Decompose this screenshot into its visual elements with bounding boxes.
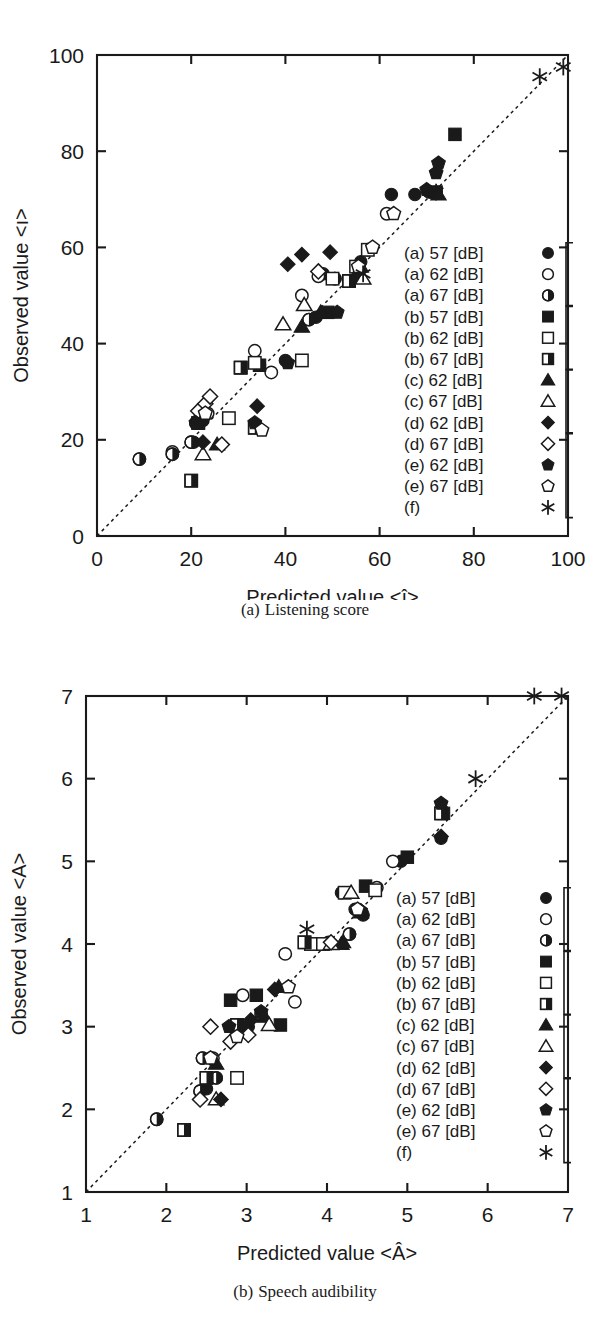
legend-label: (e) 67 [dB]: [404, 477, 483, 496]
figure-speech-audibility: 12345671234567Predicted value <Â>Observe…: [0, 640, 610, 1342]
legend-label: (d) 62 [dB]: [396, 1059, 475, 1078]
y-tick-label: 20: [61, 428, 84, 451]
marker-circle-open-pt: [249, 345, 261, 357]
marker-square-half-pt-half: [184, 1124, 190, 1136]
marker-circle-open-pt: [236, 989, 248, 1001]
marker-pentagon-filled-legend: [542, 459, 554, 470]
marker-diamond-open-pt: [203, 1019, 218, 1034]
legend-label: (b) 57 [dB]: [396, 953, 475, 972]
marker-circle-filled-legend: [541, 893, 552, 904]
marker-circle-open-pt: [387, 855, 399, 867]
marker-square-open-pt: [249, 357, 261, 369]
series-11: [198, 207, 400, 436]
marker-circle-open-pt: [265, 366, 277, 378]
marker-square-open-pt: [223, 412, 235, 424]
x-tick-label: 5: [401, 1203, 413, 1226]
x-tick-label: 1: [80, 1203, 92, 1226]
marker-pentagon-filled-pt: [254, 1005, 268, 1018]
legend: (a) 57 [dB](a) 62 [dB](a) 67 [dB](b) 57 …: [396, 888, 571, 1163]
marker-diamond-open-legend: [541, 437, 554, 450]
y-axis-title: Observed value <A>: [8, 853, 30, 1035]
marker-square-filled-pt: [449, 128, 461, 140]
identity-reference-line: [97, 55, 568, 536]
scatter-plot-speech-audibility: 12345671234567Predicted value <Â>Observe…: [0, 640, 610, 1280]
legend-label: (c) 67 [dB]: [396, 1037, 474, 1056]
x-axis-title: Predicted value <î>: [246, 586, 418, 600]
caption-text-b: Speech audibility: [258, 1282, 377, 1301]
marker-diamond-filled-legend: [542, 416, 555, 429]
caption-text-a: Listening score: [265, 600, 369, 619]
legend-label: (e) 67 [dB]: [396, 1122, 475, 1141]
x-tick-label: 0: [91, 547, 103, 570]
marker-square-filled-legend: [541, 956, 552, 967]
x-tick-label: 100: [550, 547, 585, 570]
y-axis-title: Observed value <ı>: [10, 208, 32, 383]
legend-label: (d) 62 [dB]: [404, 414, 483, 433]
legend-label: (f): [404, 498, 420, 517]
marker-square-open-pt: [326, 272, 338, 284]
legend-label: (b) 57 [dB]: [404, 308, 483, 327]
y-tick-label: 1: [61, 1181, 73, 1204]
legend: (a) 57 [dB](a) 62 [dB](a) 67 [dB](b) 57 …: [404, 243, 573, 518]
legend-label: (b) 62 [dB]: [396, 974, 475, 993]
marker-square-filled-legend: [543, 311, 554, 322]
marker-square-half-legend-half: [546, 999, 551, 1010]
legend-label: (a) 67 [dB]: [404, 286, 483, 305]
y-tick-label: 2: [61, 1098, 73, 1121]
marker-triangle-open-pt: [275, 317, 290, 330]
marker-diamond-filled-pt: [250, 399, 265, 414]
legend-label: (d) 67 [dB]: [404, 435, 483, 454]
y-tick-label: 60: [61, 236, 84, 259]
x-tick-label: 2: [160, 1203, 172, 1226]
axis-tick-labels: 12345671234567: [61, 685, 574, 1227]
marker-pentagon-open-legend: [542, 480, 554, 491]
marker-circle-filled-pt: [385, 188, 397, 200]
marker-triangle-filled-legend: [539, 1019, 552, 1030]
marker-square-open-pt: [369, 884, 381, 896]
marker-diamond-open-legend: [539, 1082, 552, 1095]
legend-label: (e) 62 [dB]: [404, 456, 483, 475]
marker-triangle-open-legend: [541, 395, 554, 406]
y-tick-label: 5: [61, 850, 73, 873]
marker-pentagon-open-pt: [282, 980, 296, 993]
marker-square-filled-pt: [224, 994, 236, 1006]
marker-circle-filled-pt: [409, 188, 421, 200]
marker-circle-open-legend: [543, 269, 554, 280]
marker-diamond-filled-pt: [295, 247, 310, 262]
x-tick-label: 60: [368, 547, 391, 570]
marker-pentagon-open-pt: [366, 240, 380, 253]
marker-diamond-filled-legend: [540, 1061, 553, 1074]
x-tick-label: 40: [274, 547, 297, 570]
legend-label: (c) 62 [dB]: [396, 1016, 474, 1035]
marker-square-open-legend: [541, 977, 552, 988]
x-tick-label: 4: [321, 1203, 333, 1226]
figure-caption-a: (a)Listening score: [0, 600, 610, 620]
legend-label: (a) 57 [dB]: [404, 244, 483, 263]
legend-label: (a) 62 [dB]: [396, 910, 475, 929]
marker-diamond-filled-pt: [323, 245, 338, 260]
marker-square-open-legend: [543, 332, 554, 343]
y-tick-label: 3: [61, 1015, 73, 1038]
series-4: [223, 244, 374, 425]
figure-listening-score: 020406080100020406080100Predicted value …: [0, 0, 610, 640]
plot-area-a: 020406080100020406080100Predicted value …: [0, 0, 610, 600]
marker-diamond-filled-pt: [280, 257, 295, 272]
marker-pentagon-filled-pt: [434, 796, 448, 809]
marker-circle-open-pt: [289, 996, 301, 1008]
marker-square-filled-pt: [401, 851, 413, 863]
marker-square-half-legend-half: [548, 354, 553, 365]
marker-square-filled-pt: [250, 989, 262, 1001]
y-tick-label: 80: [61, 140, 84, 163]
legend-label: (a) 62 [dB]: [404, 265, 483, 284]
y-tick-label: 40: [61, 332, 84, 355]
legend-label: (a) 67 [dB]: [396, 931, 475, 950]
marker-square-half-pt-half: [305, 936, 311, 948]
marker-triangle-open-legend: [539, 1040, 552, 1051]
y-tick-label: 100: [49, 44, 84, 67]
x-tick-label: 6: [482, 1203, 494, 1226]
data-points: [150, 688, 568, 1137]
caption-index-a: (a): [241, 600, 260, 619]
plot-area-b: 12345671234567Predicted value <Â>Observe…: [0, 640, 610, 1280]
x-tick-label: 7: [562, 1203, 574, 1226]
legend-label: (c) 67 [dB]: [404, 392, 482, 411]
